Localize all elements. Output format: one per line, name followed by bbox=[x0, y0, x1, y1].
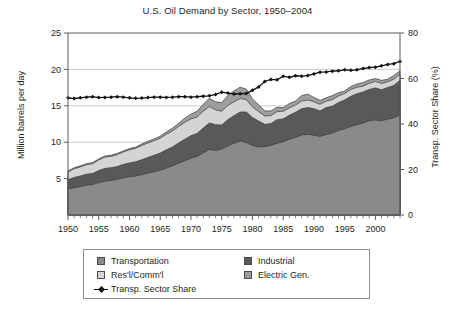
legend-swatch-industrial bbox=[244, 257, 252, 265]
svg-text:80: 80 bbox=[408, 28, 418, 38]
legend-swatch-electric-gen bbox=[244, 271, 252, 279]
svg-text:20: 20 bbox=[51, 65, 61, 75]
legend-label-industrial: Industrial bbox=[258, 256, 295, 266]
svg-text:1990: 1990 bbox=[304, 224, 324, 234]
svg-text:1975: 1975 bbox=[212, 224, 232, 234]
svg-text:1960: 1960 bbox=[119, 224, 139, 234]
svg-text:1970: 1970 bbox=[181, 224, 201, 234]
svg-text:10: 10 bbox=[51, 137, 61, 147]
legend-item-industrial: Industrial bbox=[244, 256, 295, 266]
legend-swatch-transportation bbox=[97, 257, 105, 265]
svg-text:5: 5 bbox=[56, 174, 61, 184]
svg-text:15: 15 bbox=[51, 101, 61, 111]
chart-legend: Transportation Industrial Res'l/Comm'l E… bbox=[83, 249, 370, 299]
svg-text:1965: 1965 bbox=[150, 224, 170, 234]
svg-text:40: 40 bbox=[408, 119, 418, 129]
legend-label-residential-commercial: Res'l/Comm'l bbox=[111, 270, 163, 280]
legend-item-electric-gen: Electric Gen. bbox=[244, 270, 310, 280]
svg-text:1995: 1995 bbox=[335, 224, 355, 234]
legend-swatch-residential-commercial bbox=[97, 271, 105, 279]
legend-item-residential-commercial: Res'l/Comm'l bbox=[97, 270, 163, 280]
legend-item-transportation: Transportation bbox=[97, 256, 169, 266]
svg-text:2000: 2000 bbox=[365, 224, 385, 234]
svg-text:1980: 1980 bbox=[242, 224, 262, 234]
svg-text:20: 20 bbox=[408, 165, 418, 175]
legend-label-transportation: Transportation bbox=[111, 256, 169, 266]
legend-item-transp-sector-share: Transp. Sector Share bbox=[94, 284, 196, 294]
svg-text:25: 25 bbox=[51, 28, 61, 38]
svg-text:1950: 1950 bbox=[58, 224, 78, 234]
legend-label-transp-sector-share: Transp. Sector Share bbox=[111, 284, 196, 294]
svg-text:60: 60 bbox=[408, 74, 418, 84]
legend-line-marker-icon bbox=[94, 285, 108, 293]
legend-label-electric-gen: Electric Gen. bbox=[258, 270, 310, 280]
chart-figure: U.S. Oil Demand by Sector, 1950–2004 Mil… bbox=[0, 0, 455, 312]
svg-text:0: 0 bbox=[408, 210, 413, 220]
svg-text:1955: 1955 bbox=[89, 224, 109, 234]
svg-text:1985: 1985 bbox=[273, 224, 293, 234]
